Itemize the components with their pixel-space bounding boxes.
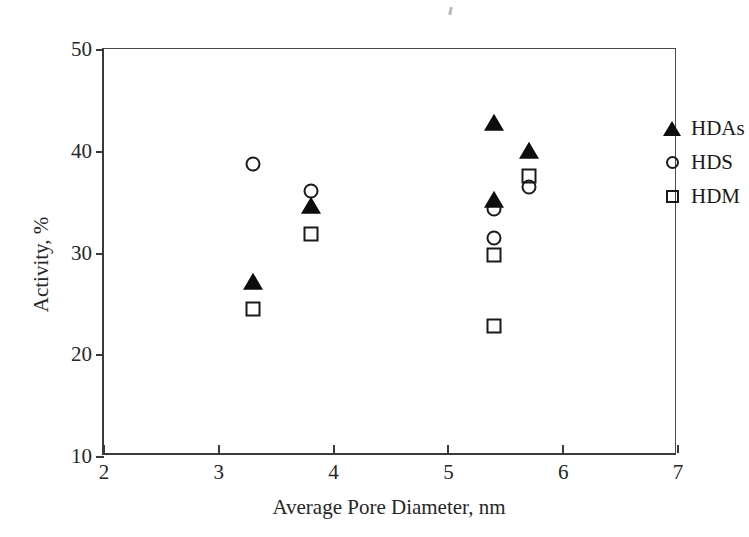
y-tick-mark [96, 49, 104, 51]
y-tick-mark [96, 354, 104, 356]
legend-label: HDAs [691, 118, 745, 139]
open-square-icon [660, 186, 684, 206]
data-point-hds [487, 231, 502, 246]
legend-label: HDS [691, 152, 733, 173]
data-point-hdas [243, 273, 263, 290]
data-point-hdm [303, 227, 318, 242]
data-point-hdas [519, 141, 539, 158]
y-tick-label: 40 [71, 140, 92, 161]
x-axis-title: Average Pore Diameter, nm [102, 495, 676, 520]
x-tick-mark [103, 445, 105, 453]
legend-label: HDM [691, 186, 740, 207]
legend: HDAsHDSHDM [660, 111, 749, 213]
x-tick-mark [447, 445, 449, 453]
y-axis-title: Activity, % [29, 217, 54, 312]
scan-artifact-speck [448, 7, 453, 15]
filled-triangle-icon [660, 118, 684, 138]
x-tick-label: 6 [558, 462, 569, 483]
y-tick-label: 10 [71, 446, 92, 467]
data-point-hdas [484, 114, 504, 131]
y-tick-mark [96, 151, 104, 153]
data-point-hdm [487, 318, 502, 333]
x-tick-label: 3 [214, 462, 225, 483]
data-point-hdm [521, 169, 536, 184]
x-tick-mark [562, 445, 564, 453]
x-tick-label: 4 [328, 462, 339, 483]
y-tick-label: 20 [71, 344, 92, 365]
data-point-hdm [487, 247, 502, 262]
x-tick-label: 7 [673, 462, 684, 483]
x-tick-mark [677, 445, 679, 453]
x-tick-label: 5 [443, 462, 454, 483]
data-point-hdm [246, 302, 261, 317]
x-tick-mark [333, 445, 335, 453]
x-tick-label: 2 [99, 462, 110, 483]
data-point-hdas [484, 190, 504, 207]
legend-item-hdm: HDM [660, 179, 749, 213]
y-tick-mark [96, 253, 104, 255]
x-tick-mark [218, 445, 220, 453]
open-circle-icon [660, 152, 684, 172]
y-tick-mark [96, 456, 104, 458]
plot-area: 1020304050 234567 HDAsHDSHDM [102, 48, 676, 455]
legend-item-hdas: HDAs [660, 111, 749, 145]
y-tick-label: 30 [71, 242, 92, 263]
legend-item-hds: HDS [660, 145, 749, 179]
data-point-hdas [301, 196, 321, 213]
data-point-hds [246, 156, 261, 171]
y-tick-label: 50 [71, 39, 92, 60]
